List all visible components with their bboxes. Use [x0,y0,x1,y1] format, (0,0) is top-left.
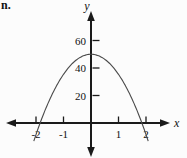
y-axis: y [83,0,94,157]
x-axis-left-arrow-icon [6,119,16,127]
y-axis-bottom-arrow-icon [87,147,95,157]
parabola-chart: x y -2-112 204060 [0,0,187,158]
x-axis-right-arrow-icon [160,119,170,127]
y-axis-label: y [83,0,90,13]
y-tick-label: 40 [75,62,87,74]
x-tick-label: -1 [59,128,68,140]
x-axis-label: x [173,116,180,130]
y-axis-ticks: 204060 [75,35,100,102]
x-tick-label: 1 [116,128,122,140]
y-tick-label: 20 [75,90,87,102]
y-tick-label: 60 [75,35,87,47]
